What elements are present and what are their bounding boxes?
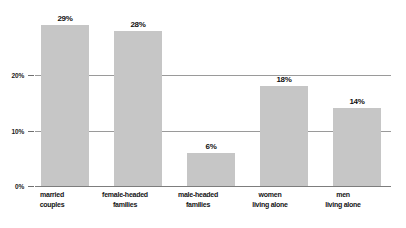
- bar-married-couples: 29%: [41, 25, 89, 186]
- bar-male-headed-families: 6%: [187, 153, 235, 186]
- xlabel-men-living-alone: men living alone: [305, 190, 381, 210]
- ytick-mark-20: [28, 75, 34, 76]
- bar-female-headed-families: 28%: [114, 31, 162, 186]
- xlabel-line-1: male-headed: [158, 190, 238, 200]
- bar-value-women-living-alone: 18%: [276, 75, 291, 84]
- xlabel-line-1: female-headed: [84, 190, 166, 200]
- xlabel-female-headed-families: female-headed families: [84, 190, 166, 210]
- ytick-label-10: 10%: [12, 127, 24, 134]
- bar-women-living-alone: 18%: [260, 86, 308, 186]
- xlabel-line-1: women: [232, 190, 308, 200]
- ytick-mark-10: [28, 131, 34, 132]
- bar-value-married-couples: 29%: [57, 14, 72, 23]
- xlabel-line-1: men: [305, 190, 381, 200]
- axis-baseline: [35, 186, 391, 187]
- ytick-label-0: 0%: [15, 183, 24, 190]
- bar-men-living-alone: 14%: [333, 108, 381, 186]
- xlabel-married-couples: married couples: [17, 190, 87, 210]
- ytick-label-20: 20%: [12, 72, 24, 79]
- xlabel-line-1: married: [17, 190, 87, 200]
- plot-area: 20% 10% 0% 29% 28% 6% 18% 14%: [35, 14, 391, 186]
- xlabel-line-2: living alone: [232, 200, 308, 210]
- xlabel-line-2: families: [158, 200, 238, 210]
- xlabel-women-living-alone: women living alone: [232, 190, 308, 210]
- xlabel-male-headed-families: male-headed families: [158, 190, 238, 210]
- xlabel-line-2: couples: [17, 200, 87, 210]
- bar-value-men-living-alone: 14%: [349, 97, 364, 106]
- bar-chart: 20% 10% 0% 29% 28% 6% 18% 14%: [0, 0, 406, 228]
- bar-value-male-headed-families: 6%: [206, 142, 217, 151]
- xlabel-line-2: families: [84, 200, 166, 210]
- xlabel-line-2: living alone: [305, 200, 381, 210]
- ytick-mark-0: [28, 186, 34, 187]
- bar-value-female-headed-families: 28%: [130, 20, 145, 29]
